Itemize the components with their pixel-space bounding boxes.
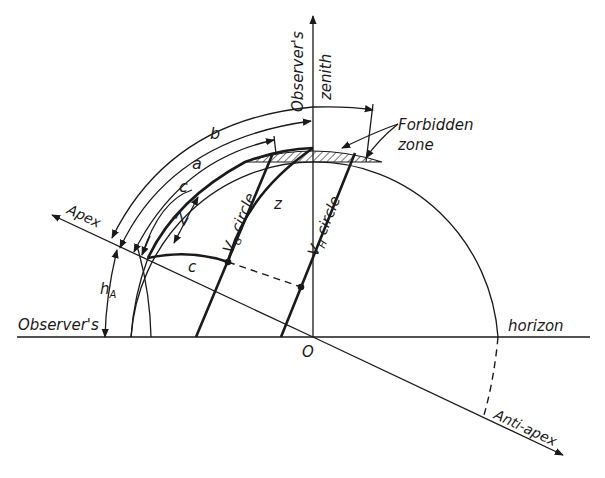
forbidden-label-line1: Forbidden bbox=[398, 116, 473, 134]
apex-label: Apex bbox=[64, 201, 104, 231]
forbidden-label-line2: zone bbox=[397, 136, 434, 154]
zenith-label-line1: Observer's bbox=[289, 31, 307, 112]
zenith-label-line2: zenith bbox=[317, 54, 335, 101]
celestial-diagram: Observer's zenith Forbidden zone Apex An… bbox=[0, 0, 605, 478]
horizon-label-right: horizon bbox=[508, 317, 564, 335]
arc-c-outer-label: c bbox=[179, 177, 188, 196]
dimension-arc-c-arrow bbox=[142, 236, 150, 255]
celestial-circle-below-horizon bbox=[484, 337, 498, 415]
horizon-label-left: Observer's bbox=[18, 316, 99, 334]
arc-c-inner-label: c bbox=[188, 258, 197, 276]
vh-circle-label: VH circle bbox=[304, 194, 346, 260]
arc-z-label: z bbox=[273, 195, 283, 213]
origin-label: O bbox=[302, 343, 314, 361]
anti-apex-label: Anti-apex bbox=[491, 406, 560, 450]
vg-vh-dashed-link bbox=[228, 262, 301, 287]
h-a-label: hA bbox=[100, 280, 117, 300]
arc-b-label: b bbox=[210, 124, 220, 143]
vh-point bbox=[298, 284, 305, 291]
vg-point bbox=[225, 259, 232, 266]
anti-apex-line bbox=[313, 337, 563, 455]
apex-zenith-arc bbox=[148, 148, 313, 258]
forbidden-leader-2 bbox=[366, 124, 398, 158]
vg-circle-label: VG circle bbox=[219, 190, 261, 256]
arc-a-label: a bbox=[192, 154, 202, 173]
dimension-tick-a bbox=[274, 136, 276, 154]
inner-left-arc bbox=[131, 258, 148, 337]
